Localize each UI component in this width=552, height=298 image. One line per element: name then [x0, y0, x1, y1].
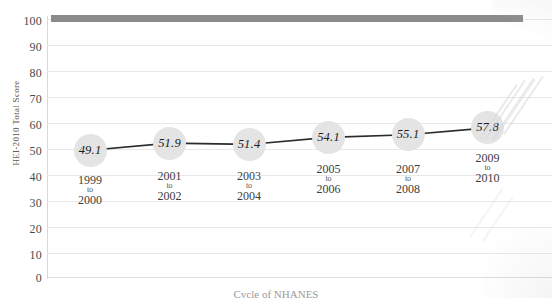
- data-point-bubble: 49.1: [74, 134, 107, 167]
- x-axis-category-label: 2007to2008: [378, 163, 438, 196]
- data-point-bubble: 55.1: [392, 118, 425, 151]
- x-label-end: 2010: [458, 172, 518, 184]
- x-axis-category-label: 2003to2004: [219, 170, 279, 203]
- x-axis-category-label: 1999to2000: [60, 174, 120, 207]
- data-point-bubble: 51.4: [233, 128, 266, 161]
- x-label-end: 2008: [378, 183, 438, 195]
- chart-page: HEI-2010 Total Score 100 90 80 70 60 50 …: [0, 0, 552, 298]
- x-axis-title: Cycle of NHANES: [0, 289, 552, 298]
- data-point-bubble: 54.1: [312, 121, 345, 154]
- x-axis-category-label: 2001to2002: [140, 170, 200, 203]
- x-axis-category-label: 2005to2006: [299, 163, 359, 196]
- x-label-end: 2006: [299, 183, 359, 195]
- x-axis-category-label: 2009to2010: [458, 152, 518, 185]
- x-label-end: 2004: [219, 190, 279, 202]
- x-label-end: 2000: [60, 194, 120, 206]
- x-label-end: 2002: [140, 190, 200, 202]
- data-point-bubble: 51.9: [153, 127, 186, 160]
